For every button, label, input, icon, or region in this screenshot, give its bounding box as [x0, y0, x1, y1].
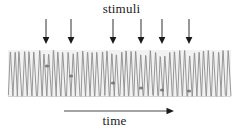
time-axis-label: time [0, 113, 237, 129]
response-marker [69, 74, 73, 77]
stimulus-arrow-head [68, 37, 75, 44]
time-axis-text: time [103, 113, 127, 128]
stimulus-arrow-head [138, 37, 145, 44]
stimulus-arrow-head [159, 37, 166, 44]
stimulus-arrow-head [43, 37, 50, 44]
response-marker [187, 89, 191, 92]
response-marker [160, 88, 164, 91]
stimuli-oscillation-figure: stimuli time [0, 0, 237, 134]
response-marker [45, 64, 49, 67]
stimulus-arrow-head [186, 37, 193, 44]
response-marker [111, 81, 115, 84]
response-marker [139, 86, 143, 89]
stimulus-arrow-head [110, 37, 117, 44]
stimulus-arrow-group [43, 19, 193, 44]
